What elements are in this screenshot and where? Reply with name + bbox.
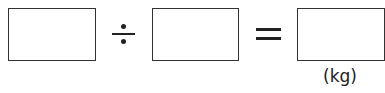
quotient-input-box[interactable] — [297, 8, 385, 61]
divide-sign — [110, 18, 136, 48]
equals-sign — [256, 26, 281, 42]
unit-label: (kg) — [323, 66, 357, 86]
dividend-input-box[interactable] — [8, 8, 96, 61]
divisor-input-box[interactable] — [152, 8, 239, 61]
